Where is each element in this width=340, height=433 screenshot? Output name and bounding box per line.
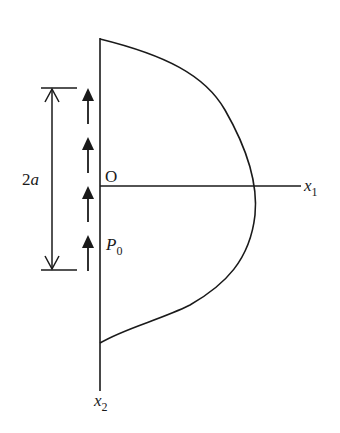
diagram-svg: O x1 x2 2a P0: [0, 0, 340, 433]
load-arrows: [82, 88, 94, 271]
diagram-canvas: O x1 x2 2a P0: [0, 0, 340, 433]
arrow-up-icon: [82, 235, 94, 271]
dimension-label: 2a: [22, 170, 39, 189]
x2-label: x2: [93, 391, 108, 414]
arrow-up-icon: [82, 186, 94, 222]
load-label-p0: P0: [105, 235, 122, 258]
arrow-up-icon: [82, 88, 94, 124]
origin-label: O: [105, 167, 117, 186]
x1-label: x1: [303, 176, 318, 199]
arrow-up-icon: [82, 137, 94, 173]
dimension-2a: [41, 88, 77, 270]
boundary-curve: [100, 39, 256, 343]
